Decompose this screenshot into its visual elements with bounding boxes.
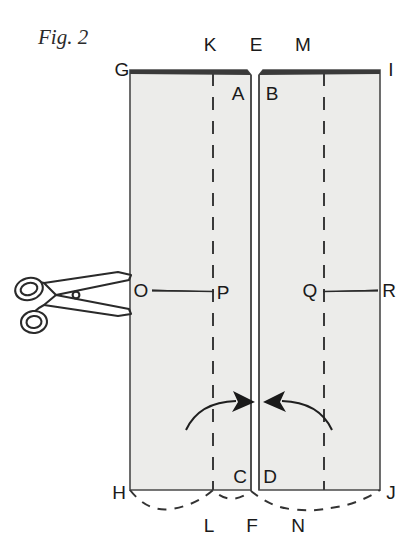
fig-2-paper-folding-diagram: Fig. 2 (0, 0, 418, 552)
label-F: F (246, 515, 258, 536)
right-flap-panel (259, 70, 380, 490)
label-I: I (388, 59, 393, 80)
scissors-icon (13, 272, 131, 334)
bottom-scallop-dashed-arcs (130, 490, 380, 510)
label-N: N (291, 515, 305, 536)
label-E: E (250, 34, 263, 55)
label-P: P (217, 282, 230, 303)
label-B: B (266, 83, 279, 104)
label-D: D (263, 466, 277, 487)
figure-container: Fig. 2 (0, 0, 418, 552)
label-O: O (134, 280, 149, 301)
label-M: M (295, 34, 311, 55)
label-L: L (204, 515, 215, 536)
label-H: H (112, 482, 126, 503)
label-Q: Q (303, 280, 318, 301)
label-K: K (204, 34, 217, 55)
label-C: C (233, 466, 247, 487)
label-R: R (382, 280, 396, 301)
label-G: G (115, 59, 130, 80)
label-A: A (232, 83, 245, 104)
label-J: J (386, 482, 396, 503)
figure-caption: Fig. 2 (37, 25, 89, 49)
